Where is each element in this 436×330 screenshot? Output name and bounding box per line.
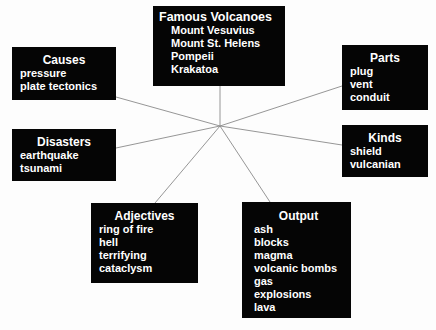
node-item: vulcanian [350, 158, 420, 171]
node-title: Output [254, 209, 343, 223]
node-item: ring of fire [99, 223, 190, 236]
node-adjectives: Adjectives ring of firehellterrifyingcat… [91, 203, 198, 283]
node-item: terrifying [99, 249, 190, 262]
connector-line-kinds [220, 126, 342, 145]
concept-map: Famous Volcanoes Mount VesuviusMount St.… [0, 0, 436, 330]
node-items: plugventconduit [350, 65, 420, 104]
node-output: Output ashblocksmagmavolcanic bombsgasex… [242, 202, 351, 318]
node-title: Adjectives [99, 209, 190, 223]
node-item: earthquake [20, 149, 108, 162]
connector-line-output [220, 126, 270, 202]
node-items: Mount VesuviusMount St. HelensPompeiiKra… [159, 24, 277, 76]
node-item: Pompeii [171, 50, 277, 63]
node-item: blocks [254, 236, 343, 249]
node-items: earthquaketsunami [20, 149, 108, 175]
node-item: volcanic bombs [254, 262, 343, 275]
node-item: Mount St. Helens [171, 37, 277, 50]
node-item: magma [254, 249, 343, 262]
node-disasters: Disasters earthquaketsunami [12, 129, 116, 181]
node-item: explosions [254, 288, 343, 301]
node-parts: Parts plugventconduit [342, 45, 428, 110]
node-item: plate tectonics [20, 80, 108, 93]
node-causes: Causes pressureplate tectonics [12, 47, 116, 100]
node-title: Parts [350, 51, 420, 65]
node-item: tsunami [20, 162, 108, 175]
connector-line-parts [220, 86, 342, 126]
node-items: pressureplate tectonics [20, 67, 108, 93]
node-kinds: Kinds shieldvulcanian [342, 125, 428, 177]
node-title: Famous Volcanoes [159, 10, 277, 24]
node-item: hell [99, 236, 190, 249]
node-items: ring of firehellterrifyingcataclysm [99, 223, 190, 275]
node-title: Causes [20, 53, 108, 67]
node-item: plug [350, 65, 420, 78]
node-item: Mount Vesuvius [171, 24, 277, 37]
node-item: ash [254, 223, 343, 236]
node-title: Kinds [350, 131, 420, 145]
node-item: pressure [20, 67, 108, 80]
node-items: ashblocksmagmavolcanic bombsgasexplosion… [254, 223, 343, 314]
node-item: vent [350, 78, 420, 91]
node-famous-volcanoes: Famous Volcanoes Mount VesuviusMount St.… [153, 6, 285, 86]
node-item: gas [254, 275, 343, 288]
node-item: conduit [350, 91, 420, 104]
node-item: shield [350, 145, 420, 158]
node-item: lava [254, 301, 343, 314]
node-item: cataclysm [99, 262, 190, 275]
node-title: Disasters [20, 135, 108, 149]
connector-line-causes [116, 97, 220, 126]
node-items: shieldvulcanian [350, 145, 420, 171]
node-item: Krakatoa [171, 63, 277, 76]
